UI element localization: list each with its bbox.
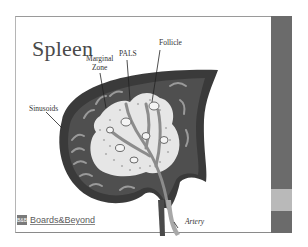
- logo-mark-icon: B&B: [17, 215, 27, 225]
- label-sinusoids: Sinusoids: [29, 104, 58, 113]
- label-marginal-zone-line1: Marginal: [86, 54, 113, 63]
- label-pals: PALS: [119, 49, 137, 58]
- label-artery: Artery: [185, 217, 204, 226]
- artery-vessel: [166, 200, 180, 236]
- vein: [158, 200, 165, 236]
- brand-logo: B&B Boards&Beyond: [17, 215, 95, 225]
- spleen-diagram: [0, 0, 308, 247]
- label-follicle: Follicle: [159, 38, 182, 47]
- label-marginal-zone: Marginal Zone: [86, 54, 113, 72]
- logo-text: Boards&Beyond: [30, 215, 95, 225]
- label-marginal-zone-line2: Zone: [86, 63, 113, 72]
